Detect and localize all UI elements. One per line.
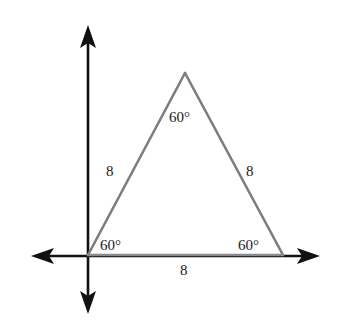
right-side-length-label: 8 <box>246 164 254 179</box>
figure-canvas: y p 60° 60° 60° <box>0 0 340 324</box>
bottom-right-angle-label: 60° <box>238 238 259 253</box>
triangle-right-side <box>185 73 283 255</box>
base-side-length-label: 8 <box>180 263 188 278</box>
left-side-length-label: 8 <box>106 164 114 179</box>
triangle-group <box>88 73 283 255</box>
axes-group <box>31 25 320 314</box>
triangle-left-side <box>88 73 185 255</box>
apex-angle-label: 60° <box>169 110 190 125</box>
geometry-figure <box>0 0 340 324</box>
bottom-left-angle-label: 60° <box>100 238 121 253</box>
